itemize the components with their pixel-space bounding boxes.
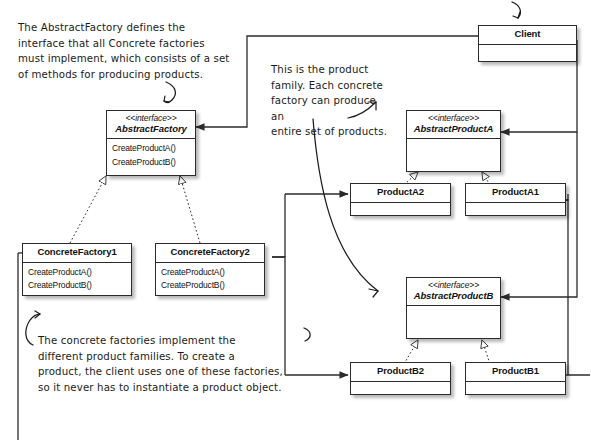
handdrawn-arrow-to-abstract-product-b	[313, 119, 378, 291]
handdrawn-arrow-head-abstract-factory	[164, 96, 169, 102]
note-product-family: This is the product family. Each concret…	[271, 62, 389, 140]
handdrawn-arrow-to-abstract-factory	[164, 82, 175, 102]
handdrawn-arrow-head-abstract-product-b	[369, 289, 378, 297]
uml-diagram-canvas: <<interface>> AbstractFactory CreateProd…	[0, 0, 591, 446]
note-abstract-factory: The AbstractFactory defines the interfac…	[18, 20, 258, 82]
note-concrete-factories: The concrete factories implement the dif…	[38, 333, 316, 395]
